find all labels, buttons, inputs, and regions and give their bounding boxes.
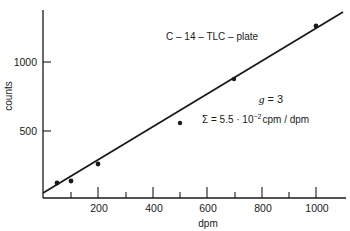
data-point bbox=[96, 162, 101, 167]
sigma-exponent: −2 bbox=[254, 113, 262, 120]
x-tick-label: 1000 bbox=[305, 202, 329, 214]
x-tick-label: 200 bbox=[90, 202, 108, 214]
x-tick-label: 800 bbox=[254, 202, 272, 214]
x-tick-label: 600 bbox=[199, 202, 217, 214]
data-point bbox=[314, 24, 319, 29]
sigma-unit: cpm / dpm bbox=[262, 114, 309, 125]
g-annotation: g = 3 bbox=[259, 93, 283, 105]
chart-title: C – 14 – TLC – plate bbox=[166, 31, 259, 42]
y-tick-label: 1000 bbox=[14, 56, 38, 68]
sigma-prefix: Σ = 5.5 · 10 bbox=[202, 114, 254, 125]
data-point bbox=[55, 181, 60, 186]
x-tick-label: 400 bbox=[145, 202, 163, 214]
g-value: = 3 bbox=[265, 93, 284, 105]
chart: 1000 500 200 400 600 800 1000 dpm counts… bbox=[0, 0, 350, 231]
sigma-annotation: Σ = 5.5 · 10−2cpm / dpm bbox=[202, 113, 309, 125]
data-point bbox=[232, 77, 236, 81]
data-point bbox=[69, 179, 74, 184]
data-point bbox=[178, 121, 182, 125]
y-axis-label: counts bbox=[3, 81, 14, 110]
x-axis-label: dpm bbox=[198, 218, 217, 229]
y-tick-label: 500 bbox=[19, 125, 37, 137]
